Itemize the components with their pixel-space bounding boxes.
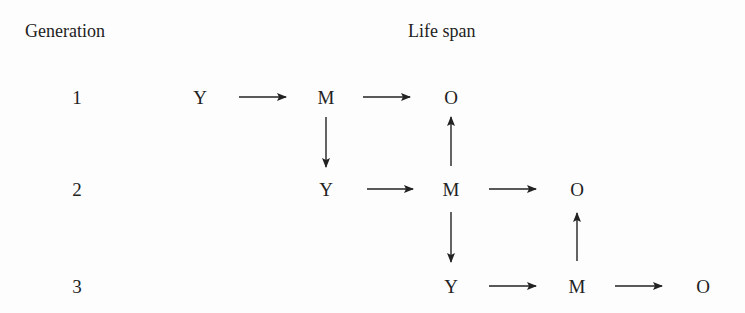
arrows-layer xyxy=(0,0,745,313)
